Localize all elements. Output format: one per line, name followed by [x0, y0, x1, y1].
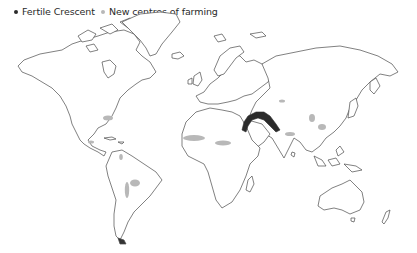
- sri-lanka: [291, 152, 295, 157]
- world-map: [0, 0, 417, 253]
- mesoamerica-centre: [88, 141, 94, 144]
- tierra-del-fuego: [118, 238, 126, 244]
- madagascar: [246, 176, 254, 192]
- indian-subcontinent-centre: [285, 132, 295, 136]
- northern-andes-centre: [119, 154, 123, 160]
- central-sahel-centre: [215, 140, 231, 145]
- caribbean-islands: [104, 137, 124, 144]
- asia: [248, 46, 398, 158]
- new-zealand: [382, 210, 390, 224]
- south-america: [106, 150, 162, 240]
- southeast-asia-islands: [314, 146, 362, 172]
- andes-centre: [125, 182, 129, 198]
- west-african-sahel-centre: [183, 135, 205, 141]
- northern-china-centre: [309, 114, 315, 122]
- eastern-north-america-centre: [103, 116, 113, 121]
- iceland: [172, 52, 184, 59]
- australia: [318, 180, 364, 214]
- amazonia-centre: [130, 180, 140, 187]
- north-america: [18, 30, 156, 156]
- central-asia-centre: [279, 100, 285, 103]
- tasmania: [351, 218, 355, 222]
- british-isles: [188, 72, 202, 86]
- yangtze-centre: [318, 124, 326, 130]
- svalbard-novaya-zemlya: [214, 32, 266, 42]
